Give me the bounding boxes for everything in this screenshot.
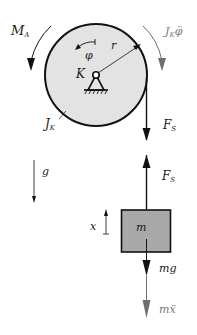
rope-force-top-label: FS [163, 119, 176, 131]
coordinate-x-arrow [103, 209, 109, 234]
rope-force-bottom-label: FS [162, 170, 175, 182]
angle-phi-label: φ [85, 50, 93, 61]
coordinate-x-label: x [90, 221, 96, 232]
inertial-force-label: mẍ [159, 304, 176, 315]
weight-mg-label: mg [159, 263, 176, 274]
gravity-arrow [32, 160, 36, 203]
moment-inertial-label: JKφ̈ [165, 26, 182, 37]
free-body-diagram [0, 0, 197, 335]
inertial-force-arrow [143, 276, 151, 318]
force-fs-down-arrowhead [143, 128, 151, 141]
force-fs-up-arrowhead [143, 155, 151, 168]
mass-m-label: m [136, 222, 146, 233]
pivot-k-label: K [76, 68, 85, 80]
radius-r-label: r [111, 40, 116, 51]
disk-inertia-label: JK [45, 118, 55, 130]
moment-ma-label: MA [11, 24, 29, 37]
gravity-g-label: g [42, 166, 49, 177]
